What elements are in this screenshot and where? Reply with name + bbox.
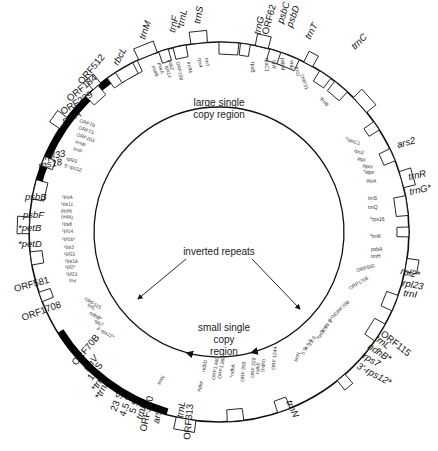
ir-label: inverted repeats: [183, 246, 255, 257]
gene-label: trnQ: [368, 204, 378, 210]
gene-label: trnH: [371, 253, 381, 259]
gene-label: rps2: [354, 147, 365, 155]
gene-label: ORF 393: [239, 361, 247, 382]
gene-box: [189, 30, 207, 44]
ssc-label-line1: small single: [198, 322, 251, 333]
gene-label: rpl2*: [65, 263, 76, 270]
gene-label: rpl22: [64, 250, 76, 257]
gene-label: rpl14: [62, 227, 74, 234]
gene-label: rpoC1: [264, 58, 270, 72]
gene-label: ndhF: [195, 380, 205, 393]
gene-label: trnI: [69, 277, 77, 284]
gene-label: psbM: [280, 58, 286, 70]
gene-label: rbcL: [110, 45, 128, 66]
gene-label: ORF 1244: [270, 346, 278, 370]
gene-label: trnC: [349, 31, 370, 52]
gene-label: trnS: [191, 5, 205, 25]
gene-label: trnT: [302, 20, 320, 41]
gene-label: atpA: [366, 177, 377, 184]
gene-label: rps8: [62, 220, 72, 227]
genome-diagram-svg: trnS*trnLtrnFtrnMrbcLORF512ORF184ORF229p…: [0, 0, 438, 451]
gene-label: trnS: [368, 195, 378, 201]
gene-label: ORF1708: [20, 298, 62, 322]
gene-box: [239, 43, 250, 56]
gene-label: psbA: [371, 246, 383, 252]
gene-label: ORF581: [356, 262, 376, 273]
gene-box: [313, 71, 330, 88]
gene-label: trnI: [403, 287, 418, 300]
gene-label: psbF: [22, 209, 45, 220]
gene-label: ORF313: [181, 403, 195, 440]
gene-label: *rps16: [370, 216, 385, 222]
gene-label: *atpF: [363, 168, 376, 176]
gene-box: [337, 374, 353, 390]
gene-box: [327, 81, 347, 101]
gene-label: trnY: [271, 60, 277, 70]
gene-label: rps3: [64, 243, 74, 250]
gene-box: [227, 408, 244, 421]
gene-box: [134, 41, 158, 60]
gene-label: ORF158: [175, 61, 185, 81]
gene-label: 5'-rps12: [64, 162, 83, 172]
gene-label: *petB: [18, 222, 42, 233]
gene-label: rps18: [37, 156, 63, 171]
gene-label: rps4: [197, 57, 204, 68]
gene-label: ORF31: [299, 73, 310, 90]
gene-label: rpoB: [319, 95, 330, 108]
region-arcs: [94, 107, 344, 357]
gene-label: rpoB: [250, 62, 256, 73]
gene-label: trnR: [407, 167, 427, 182]
ssc-label-line3: region: [210, 346, 238, 357]
gene-label: ndhD: [200, 359, 208, 372]
lsc-label-line1: large single: [193, 97, 245, 108]
gene-label: rpl23: [66, 270, 78, 277]
gene-label: *petD: [18, 238, 42, 249]
gene-label: ars2: [396, 134, 417, 150]
ir-arc-right: [251, 173, 344, 352]
gene-label: trnE: [289, 60, 295, 70]
gene-label: *rpoC1: [345, 135, 362, 146]
gene-label: trnfM: [186, 61, 194, 73]
ir-pointer-right: [252, 259, 300, 309]
gene-box: [364, 122, 379, 137]
gene-box: [397, 227, 409, 237]
chloroplast-genome-map: trnS*trnLtrnFtrnMrbcLORF512ORF184ORF229p…: [0, 0, 438, 451]
ir-pointer-left: [138, 259, 186, 299]
gene-label: ORF70B: [332, 298, 350, 316]
gene-label: rps11: [61, 200, 74, 207]
gene-box: [219, 42, 239, 55]
gene-label: *trnK: [370, 233, 382, 239]
gene-label: rpoA: [62, 193, 74, 200]
gene-label: trnT: [204, 57, 211, 66]
gene-box: [353, 89, 376, 112]
gene-label: (infA): [61, 213, 74, 220]
gene-box: [381, 291, 398, 310]
gene-box: [304, 51, 319, 66]
gene-box: [379, 149, 395, 166]
gene-box: [394, 196, 409, 217]
gene-label: psbB: [24, 191, 47, 202]
gene-label: *ndhA: [228, 363, 236, 378]
gene-label: trnM: [136, 19, 152, 41]
gene-label: (ndhI): [259, 358, 266, 372]
gene-label: trnN: [156, 374, 166, 386]
gene-label: rpl16*: [62, 235, 76, 242]
gene-label: ORF1708: [348, 275, 370, 291]
gene-box: [173, 45, 188, 59]
lsc-label-line2: copy region: [193, 109, 245, 120]
gene-label: ars1: [150, 404, 164, 424]
ssc-label-line2: copy: [213, 334, 234, 345]
ir-arc-left: [94, 173, 187, 352]
gene-box: [30, 251, 44, 265]
